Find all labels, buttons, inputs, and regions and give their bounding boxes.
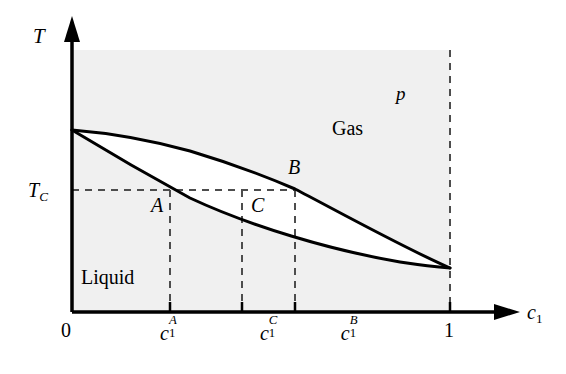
pressure-label: p [396, 84, 406, 103]
tc-label: TC [28, 180, 48, 203]
x-tick-label-ca-sup: A [169, 314, 177, 327]
x-tick-label-cc-scripts: C1 [269, 320, 284, 340]
x-tick-label-ca: cA1 [160, 322, 184, 344]
x-tick-label-cb-sup: B [350, 314, 358, 327]
x-tick-label-zero: 0 [61, 320, 71, 340]
point-label-b: B [288, 157, 300, 177]
point-label-a: A [151, 195, 163, 215]
x-tick-label-one: 1 [444, 320, 454, 340]
y-axis-label: T [33, 26, 45, 47]
liquid-region-label: Liquid [81, 267, 134, 287]
x-axis-label: c1 [527, 302, 542, 325]
x-tick-label-cb-base: c [341, 322, 350, 344]
y-axis-arrowhead [64, 16, 80, 42]
x-tick-label-cc: cC1 [260, 322, 284, 344]
x-tick-label-cc-base: c [260, 322, 269, 344]
point-label-c: C [251, 195, 264, 215]
x-tick-label-cb: cB1 [341, 322, 365, 344]
x-tick-label-ca-sub: 1 [169, 327, 175, 340]
x-tick-label-cc-sub: 1 [269, 327, 275, 340]
tc-label-base: T [28, 179, 39, 201]
phase-diagram-figure: T TC 0 cA1 cC1 cB1 1 c1 Liquid Gas p A B… [0, 0, 566, 374]
phase-diagram-canvas [0, 0, 566, 374]
x-axis-label-base: c [527, 301, 536, 323]
x-tick-label-ca-scripts: A1 [169, 320, 184, 340]
tc-label-sub: C [39, 189, 48, 204]
x-tick-label-cb-sub: 1 [350, 327, 356, 340]
x-tick-label-cc-sup: C [269, 314, 278, 327]
gas-region-label: Gas [332, 118, 363, 138]
x-axis-arrowhead [494, 304, 520, 320]
x-tick-label-ca-base: c [160, 322, 169, 344]
x-axis-label-sub: 1 [536, 311, 543, 326]
x-tick-label-cb-scripts: B1 [350, 320, 365, 340]
